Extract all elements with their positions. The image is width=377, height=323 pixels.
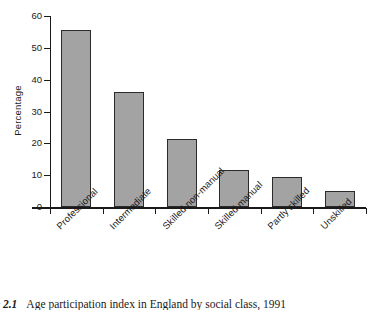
x-axis-tick [313, 208, 314, 214]
y-axis-tick-label: 0 [14, 202, 42, 212]
x-axis-tick [103, 208, 104, 214]
y-axis-tick [44, 48, 50, 49]
y-axis-tick [44, 112, 50, 113]
bar [61, 30, 91, 207]
figure-number: e 2.1 [0, 298, 17, 310]
x-axis-tick [50, 208, 51, 214]
x-axis-tick [366, 208, 367, 214]
x-axis-tick [208, 208, 209, 214]
y-axis-tick-label: 20 [14, 138, 42, 148]
bar-chart-plot: Percentage 0102030405060 ProfessionalInt… [0, 0, 377, 290]
y-axis-tick-label: 40 [14, 75, 42, 85]
y-axis-tick-label: 60 [14, 11, 42, 21]
figure-container: Percentage 0102030405060 ProfessionalInt… [0, 0, 377, 323]
y-axis-tick-label: 30 [14, 107, 42, 117]
figure-caption-text: Age participation index in England by so… [26, 298, 286, 310]
y-axis-tick [44, 80, 50, 81]
y-axis-tick [44, 16, 50, 17]
y-axis-tick [44, 175, 50, 176]
x-axis-tick [261, 208, 262, 214]
y-axis-tick-label: 50 [14, 43, 42, 53]
y-axis-tick [44, 143, 50, 144]
y-axis-tick-label: 10 [14, 170, 42, 180]
x-axis-tick [155, 208, 156, 214]
figure-caption: e 2.1Age participation index in England … [0, 298, 377, 310]
y-axis-line [50, 16, 51, 208]
